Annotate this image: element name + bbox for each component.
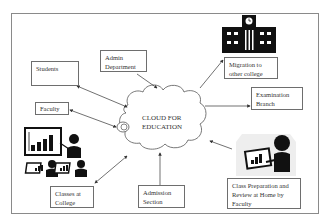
cloud-label-line2: EDUCATION: [142, 123, 182, 132]
classroom-icon: [24, 127, 94, 187]
faculty-node: Faculty: [35, 102, 69, 115]
home-study-icon: [234, 124, 298, 176]
students-node: Students: [31, 61, 79, 86]
admission-label-line2: Section: [143, 197, 180, 206]
migration-node: Migration to other college: [224, 57, 278, 79]
home-label-line3: Faculty: [232, 199, 296, 208]
home-node: Class Preparation and Review at Home by …: [227, 178, 301, 209]
migration-label-line1: Migration to: [229, 60, 273, 69]
classes-label-line2: College: [55, 198, 89, 207]
college-building-icon: [222, 15, 278, 55]
home-label-line1: Class Preparation and: [232, 181, 296, 190]
classes-node: Classes at College: [50, 186, 94, 208]
students-label: Students: [36, 65, 58, 72]
admin-node: Admin Department: [100, 50, 147, 72]
admission-label-line1: Admission: [143, 188, 180, 197]
admin-label-line1: Admin: [105, 53, 142, 62]
migration-label-line2: other college: [229, 69, 273, 78]
classes-label-line1: Classes at: [55, 189, 89, 198]
faculty-label: Faculty: [40, 105, 60, 112]
admission-node: Admission Section: [138, 185, 185, 208]
examination-label-line2: Branch: [256, 99, 298, 108]
admin-label-line2: Department: [105, 62, 142, 71]
examination-label-line1: Examination: [256, 90, 298, 99]
cloud-label: CLOUD FOR EDUCATION: [142, 114, 182, 132]
examination-node: Examination Branch: [251, 87, 303, 110]
home-label-line2: Review at Home by: [232, 190, 296, 199]
cloud-label-line1: CLOUD FOR: [142, 114, 182, 123]
